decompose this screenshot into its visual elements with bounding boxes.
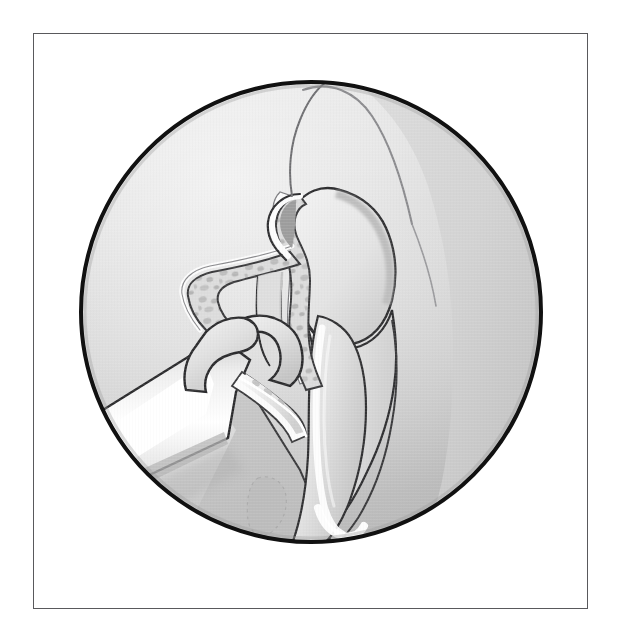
endoscope-field-group (74, 79, 544, 560)
illustration-canvas: Endoscopic view of left nasal cavity dur… (0, 0, 619, 632)
surgical-illustration: Endoscopic view of left nasal cavity dur… (0, 0, 619, 632)
